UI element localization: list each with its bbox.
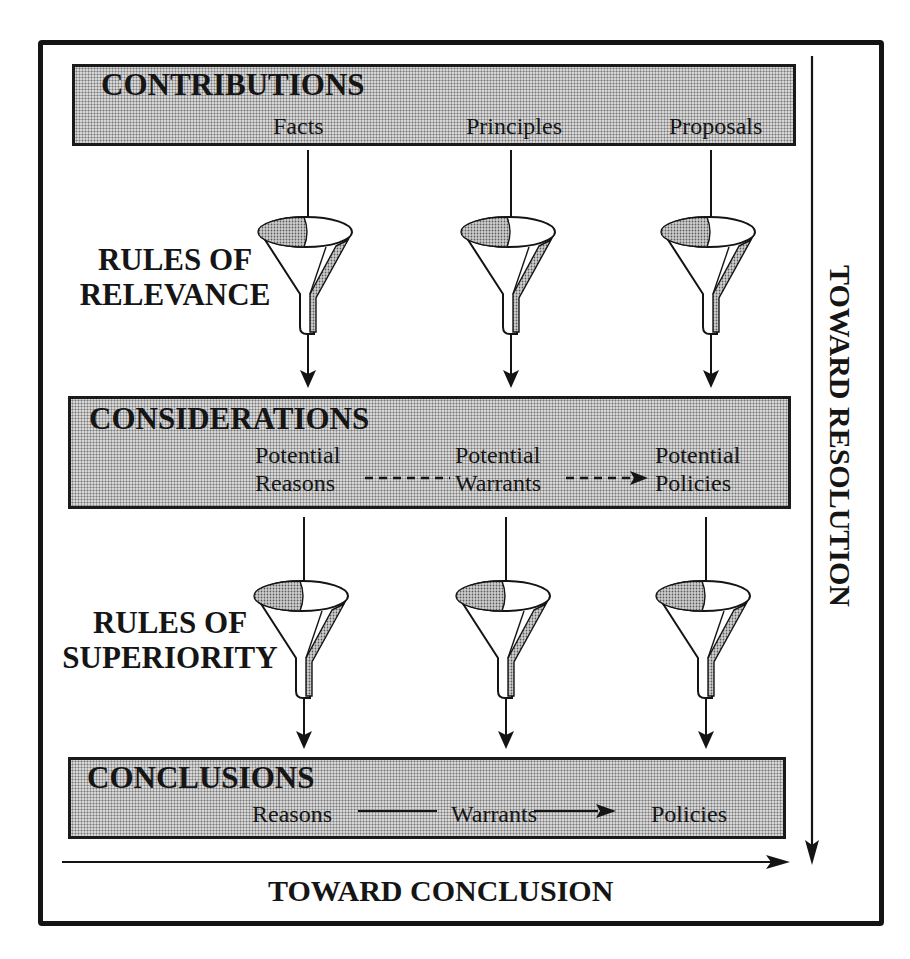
superiority-funnel-reasons [254, 517, 348, 749]
superiority-funnel-warrants [456, 517, 550, 749]
toward-resolution-arrow [805, 56, 819, 865]
toward-conclusion-arrow [62, 855, 790, 869]
relevance-funnel-principles [461, 150, 555, 388]
superiority-funnel-policies [656, 517, 750, 749]
conclusions-solid-connector [358, 804, 616, 818]
diagram-graphics [0, 0, 910, 959]
relevance-funnel-facts [258, 150, 352, 388]
relevance-funnel-proposals [661, 150, 755, 388]
considerations-dashed-connector [365, 471, 648, 485]
